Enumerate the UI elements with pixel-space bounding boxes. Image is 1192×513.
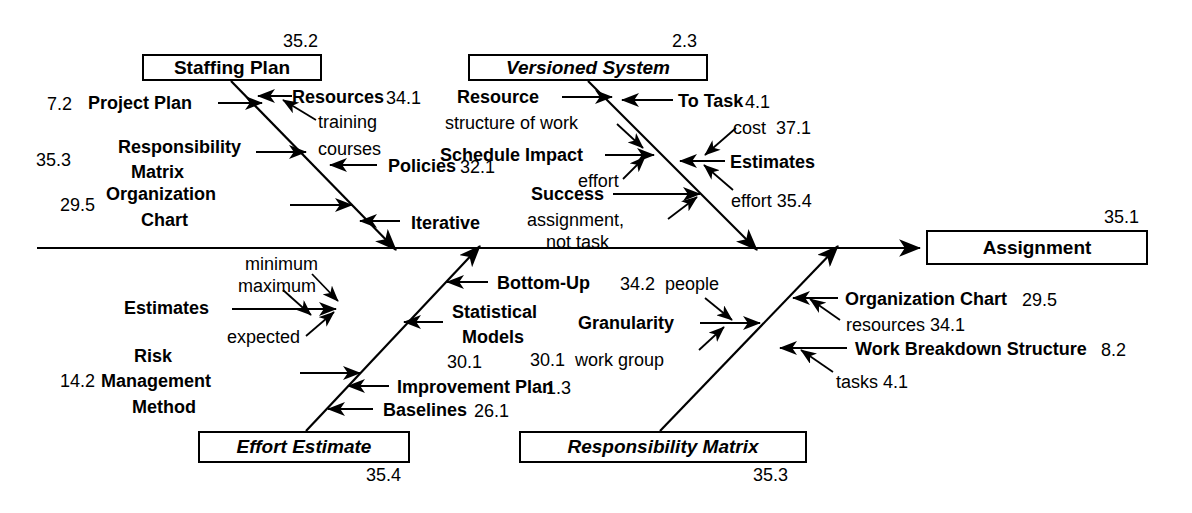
- cause-responsibility: Responsibility: [118, 138, 241, 156]
- cause-schedule-impact: Schedule Impact: [440, 146, 583, 164]
- cause-organization-chart-bottom: Organization Chart: [845, 290, 1007, 308]
- cause-estimates-bottom: Estimates: [124, 299, 209, 317]
- cause-risk: Risk: [134, 347, 172, 365]
- ref-responsibility-matrix: 35.3: [753, 465, 788, 486]
- ref-project-plan: 7.2: [47, 95, 72, 113]
- category-box-effort-estimate[interactable]: Effort Estimate: [198, 431, 410, 463]
- ref-resources: 34.1: [386, 89, 421, 107]
- cause-method: Method: [132, 398, 196, 416]
- cause-work-breakdown-structure: Work Breakdown Structure: [855, 340, 1087, 358]
- fishbone-diagram-canvas: Staffing Plan 35.2 Versioned System 2.3 …: [0, 0, 1192, 513]
- ref-assignment: 35.1: [1104, 207, 1139, 228]
- subcause-structure-of-work: structure of work: [445, 114, 578, 132]
- category-box-responsibility-matrix[interactable]: Responsibility Matrix: [519, 431, 807, 463]
- ref-improvement-plan: 1.3: [546, 379, 571, 397]
- cause-iterative: Iterative: [411, 214, 480, 232]
- subcause-not-task: not task: [546, 233, 609, 251]
- subcause-tasks: tasks 4.1: [836, 373, 908, 391]
- cause-management: Management: [101, 372, 211, 390]
- category-box-staffing-plan[interactable]: Staffing Plan: [142, 54, 322, 81]
- cause-chart: Chart: [141, 211, 188, 229]
- ref-cost: 37.1: [776, 119, 811, 137]
- cause-resource: Resource: [457, 88, 539, 106]
- cause-to-task: To Task: [678, 92, 743, 110]
- subcause-people: people: [665, 275, 719, 293]
- ref-responsibility-matrix-cause: 35.3: [36, 151, 71, 169]
- subcause-assignment: assignment,: [527, 211, 624, 229]
- ref-risk-management-method: 14.2: [60, 372, 95, 390]
- cause-estimates-top: Estimates: [730, 153, 815, 171]
- ref-staffing-plan: 35.2: [283, 31, 318, 52]
- subcause-maximum: maximum: [238, 277, 316, 295]
- cause-improvement-plan: Improvement Plan: [397, 378, 553, 396]
- ref-work-breakdown-structure: 8.2: [1101, 341, 1126, 359]
- cause-models: Models: [462, 328, 524, 346]
- cause-granularity: Granularity: [578, 314, 674, 332]
- cause-baselines: Baselines: [383, 401, 467, 419]
- ref-statistical-models: 30.1: [447, 353, 482, 371]
- effect-box-assignment[interactable]: Assignment: [926, 230, 1148, 265]
- cause-bottom-up: Bottom-Up: [497, 274, 590, 292]
- category-box-versioned-system[interactable]: Versioned System: [468, 54, 708, 81]
- subcause-courses: courses: [318, 140, 381, 158]
- cause-resources: Resources: [292, 88, 384, 106]
- cause-organization: Organization: [106, 185, 216, 203]
- ref-to-task: 4.1: [745, 93, 770, 111]
- cause-success: Success: [531, 185, 604, 203]
- subcause-minimum: minimum: [245, 255, 318, 273]
- ref-organization-chart-bottom: 29.5: [1022, 291, 1057, 309]
- subcause-work-group: work group: [575, 351, 664, 369]
- cause-matrix: Matrix: [131, 163, 184, 181]
- cause-statistical: Statistical: [452, 303, 537, 321]
- cause-project-plan: Project Plan: [88, 94, 192, 112]
- ref-versioned-system: 2.3: [672, 31, 697, 52]
- ref-effort-estimate: 35.4: [366, 465, 401, 486]
- ref-work-group: 30.1: [530, 351, 565, 369]
- subcause-effort-35-4: effort 35.4: [731, 192, 812, 210]
- ref-baselines: 26.1: [474, 402, 509, 420]
- ref-people: 34.2: [620, 275, 655, 293]
- subcause-resources: resources 34.1: [846, 316, 965, 334]
- ref-organization-chart-top: 29.5: [60, 196, 95, 214]
- subcause-expected: expected: [227, 328, 300, 346]
- subcause-cost: cost: [733, 119, 766, 137]
- subcause-training: training: [318, 113, 377, 131]
